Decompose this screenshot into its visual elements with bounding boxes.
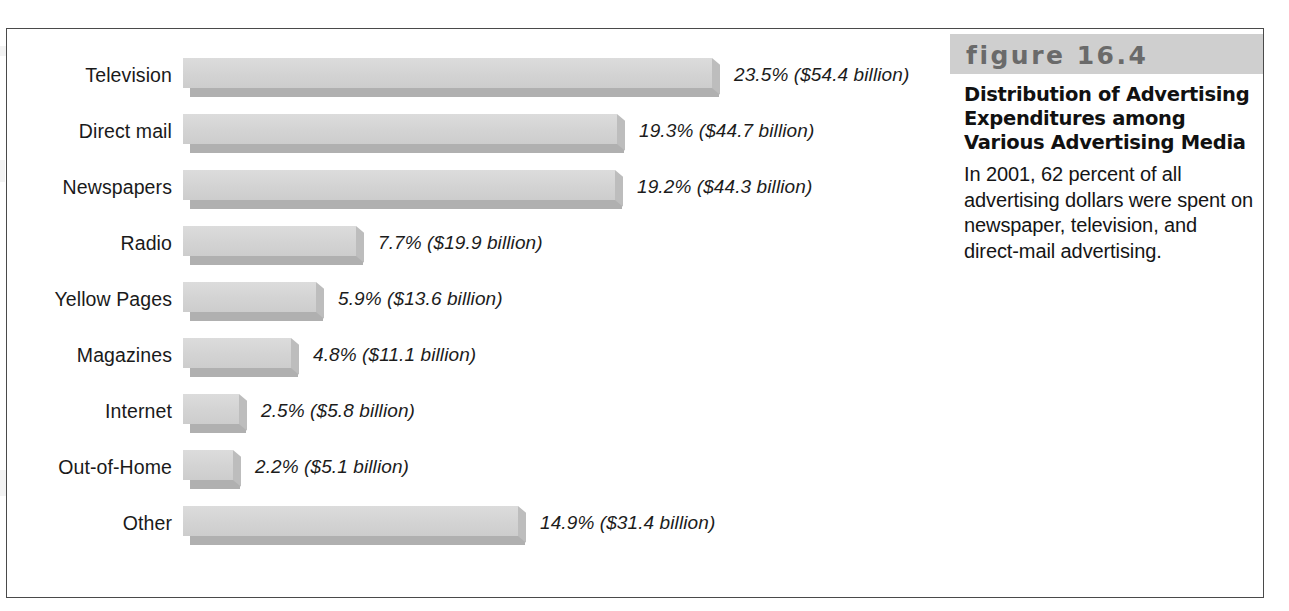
bar	[183, 226, 356, 270]
figure-container: Television23.5% ($54.4 billion)Direct ma…	[0, 0, 1289, 611]
bar-side-face	[291, 338, 299, 375]
bar-side-face	[518, 506, 526, 543]
bar-side-face	[615, 170, 623, 207]
bar	[183, 282, 316, 326]
bar-side-face	[712, 58, 720, 95]
figure-number-banner: figure 16.4	[950, 34, 1263, 74]
bar-bottom-shadow	[190, 368, 298, 377]
bar-category-label: Direct mail	[0, 120, 172, 143]
bar-front-face	[183, 170, 615, 200]
figure-title: Distribution of Advertising Expenditures…	[964, 83, 1254, 155]
bar-bottom-shadow	[190, 480, 240, 489]
bar-value-label: 2.2% ($5.1 billion)	[255, 456, 409, 478]
bar-bottom-shadow	[190, 88, 719, 97]
bar-value-label: 5.9% ($13.6 billion)	[338, 288, 503, 310]
bar-bottom-shadow	[190, 256, 363, 265]
bar	[183, 170, 615, 214]
bar-side-face	[239, 394, 247, 431]
bar-value-label: 7.7% ($19.9 billion)	[378, 232, 543, 254]
bar-row: Out-of-Home2.2% ($5.1 billion)	[0, 450, 944, 496]
bar-bottom-shadow	[190, 536, 525, 545]
bar-row: Other14.9% ($31.4 billion)	[0, 506, 944, 552]
bar-row: Direct mail19.3% ($44.7 billion)	[0, 114, 944, 160]
bar	[183, 338, 291, 382]
bar	[183, 506, 518, 550]
bar-category-label: Internet	[0, 400, 172, 423]
bar-bottom-shadow	[190, 312, 323, 321]
bar-category-label: Other	[0, 512, 172, 535]
bar-front-face	[183, 282, 316, 312]
bar-value-label: 4.8% ($11.1 billion)	[313, 344, 476, 366]
bar-side-face	[316, 282, 324, 319]
bar-value-label: 19.2% ($44.3 billion)	[637, 176, 812, 198]
bar	[183, 450, 233, 494]
bar-category-label: Magazines	[0, 344, 172, 367]
bar-front-face	[183, 394, 239, 424]
caption-column: figure 16.4 Distribution of Advertising …	[948, 29, 1263, 597]
bar-bottom-shadow	[190, 144, 624, 153]
bar-front-face	[183, 226, 356, 256]
bar	[183, 394, 239, 438]
bar-row: Yellow Pages5.9% ($13.6 billion)	[0, 282, 944, 328]
figure-description: In 2001, 62 percent of all advertising d…	[964, 162, 1256, 264]
bar-value-label: 19.3% ($44.7 billion)	[639, 120, 814, 142]
bar-category-label: Television	[0, 64, 172, 87]
bar-side-face	[617, 114, 625, 151]
bar-side-face	[356, 226, 364, 263]
bar-row: Newspapers19.2% ($44.3 billion)	[0, 170, 944, 216]
bar-bottom-shadow	[190, 200, 622, 209]
bar-front-face	[183, 450, 233, 480]
bar-value-label: 14.9% ($31.4 billion)	[540, 512, 715, 534]
bar	[183, 114, 617, 158]
bar-row: Magazines4.8% ($11.1 billion)	[0, 338, 944, 384]
bar-value-label: 23.5% ($54.4 billion)	[734, 64, 909, 86]
bar	[183, 58, 712, 102]
bar-row: Television23.5% ($54.4 billion)	[0, 58, 944, 104]
figure-number-label: figure 16.4	[966, 41, 1148, 70]
bar-front-face	[183, 114, 617, 144]
bar-category-label: Radio	[0, 232, 172, 255]
bar-chart: Television23.5% ($54.4 billion)Direct ma…	[0, 28, 944, 598]
bar-category-label: Yellow Pages	[0, 288, 172, 311]
bar-front-face	[183, 338, 291, 368]
bar-row: Internet2.5% ($5.8 billion)	[0, 394, 944, 440]
bar-front-face	[183, 58, 712, 88]
bar-category-label: Out-of-Home	[0, 456, 172, 479]
bar-side-face	[233, 450, 241, 487]
bar-front-face	[183, 506, 518, 536]
bar-value-label: 2.5% ($5.8 billion)	[261, 400, 415, 422]
bar-bottom-shadow	[190, 424, 246, 433]
bar-row: Radio7.7% ($19.9 billion)	[0, 226, 944, 272]
bar-category-label: Newspapers	[0, 176, 172, 199]
